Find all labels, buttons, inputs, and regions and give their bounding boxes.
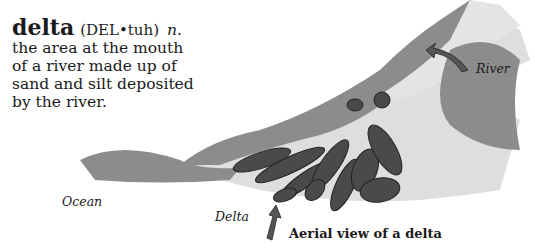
label-river: River bbox=[476, 61, 510, 76]
label-ocean: Ocean bbox=[62, 194, 102, 209]
delta-illustration bbox=[0, 0, 535, 252]
delta-arrow-icon bbox=[267, 205, 281, 240]
illustration-caption: Aerial view of a delta bbox=[289, 226, 442, 241]
label-delta: Delta bbox=[215, 209, 249, 224]
